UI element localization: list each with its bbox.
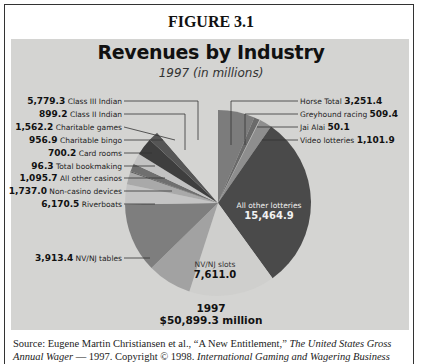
- callout-label: 96.3 Total bookmaking: [31, 161, 122, 172]
- lotteries-inner-label: All other lotteries 15,464.9: [224, 201, 314, 221]
- callout-label: 6,170.5 Riverboats: [41, 199, 122, 210]
- callout-label: 1,562.2 Charitable games: [15, 122, 122, 133]
- callout-label: Video lotteries 1,101.9: [300, 135, 395, 146]
- callout-label: 899.2 Class II Indian: [39, 109, 122, 120]
- slots-inner-label: NV/NJ slots 7,611.0: [180, 260, 250, 280]
- callout-label: 1,737.0 Non-casino devices: [9, 186, 122, 197]
- callout-label: 956.9 Charitable bingo: [29, 135, 122, 146]
- callout-label: 700.2 Card rooms: [48, 148, 122, 159]
- callout-label: 3,913.4 NV/NJ tables: [35, 253, 122, 264]
- callout-label: 5,779.3 Class III Indian: [27, 96, 122, 107]
- callout-label: Jai Alai 50.1: [300, 122, 350, 133]
- callout-label: Horse Total 3,251.4: [300, 96, 382, 107]
- callout-label: 1,095.7 All other casinos: [19, 173, 122, 184]
- total-label: 1997 $50,899.3 million: [0, 302, 422, 326]
- callout-label: Greyhound racing 509.4: [300, 109, 398, 120]
- source-citation: Source: Eugene Martin Christiansen et al…: [13, 337, 413, 363]
